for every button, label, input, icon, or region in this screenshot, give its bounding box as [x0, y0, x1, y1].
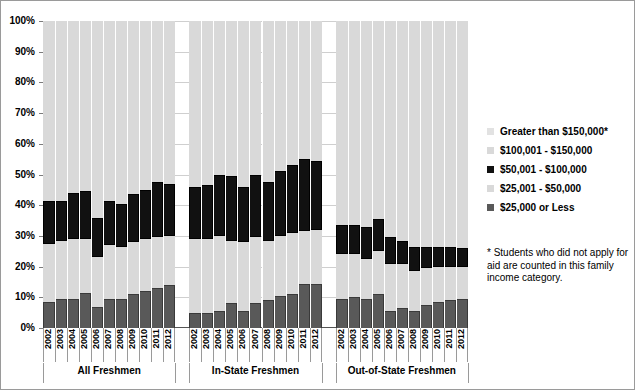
- column-separator: [225, 21, 226, 328]
- bar-segment: [360, 227, 372, 259]
- bar-segment: [55, 299, 67, 328]
- x-band-box: [189, 328, 321, 362]
- stacked-bar[interactable]: [43, 21, 55, 328]
- bar-segment: [372, 21, 384, 219]
- bar-segment: [310, 230, 322, 284]
- legend-item[interactable]: $50,001 - $100,000: [487, 163, 632, 175]
- bar-group: [189, 21, 321, 328]
- column-separator: [249, 21, 250, 328]
- column-separator: [67, 21, 68, 328]
- bar-segment: [408, 247, 420, 272]
- stacked-bar[interactable]: [213, 21, 225, 328]
- legend: Greater than $150,000*$100,001 - $150,00…: [487, 125, 632, 220]
- bar-segment: [298, 231, 310, 283]
- stacked-bar[interactable]: [348, 21, 360, 328]
- stacked-bar[interactable]: [310, 21, 322, 328]
- bar-segment: [201, 239, 213, 313]
- stacked-bar[interactable]: [336, 21, 348, 328]
- group-rule: [189, 363, 190, 383]
- x-band-box: [43, 328, 175, 362]
- bar-segment: [189, 21, 201, 187]
- stacked-bar[interactable]: [201, 21, 213, 328]
- stacked-bar[interactable]: [396, 21, 408, 328]
- stacked-bar[interactable]: [249, 21, 261, 328]
- y-axis: 0%10%20%30%40%50%60%70%80%90%100%: [1, 15, 39, 331]
- stacked-bar[interactable]: [420, 21, 432, 328]
- bar-segment: [336, 225, 348, 254]
- stacked-bar[interactable]: [286, 21, 298, 328]
- bar-segment: [225, 303, 237, 328]
- bar-segment: [396, 21, 408, 241]
- bar-segment: [43, 21, 55, 201]
- stacked-bar[interactable]: [67, 21, 79, 328]
- bar-segment: [360, 259, 372, 299]
- bar-segment: [201, 313, 213, 328]
- stacked-bar[interactable]: [127, 21, 139, 328]
- stacked-bar[interactable]: [189, 21, 201, 328]
- stacked-bar[interactable]: [274, 21, 286, 328]
- bar-segment: [127, 21, 139, 194]
- stacked-bar[interactable]: [115, 21, 127, 328]
- bar-segment: [139, 21, 151, 190]
- bar-segment: [372, 219, 384, 251]
- bar-segment: [274, 171, 286, 235]
- bar-segment: [384, 21, 396, 237]
- bar-segment: [67, 21, 79, 193]
- legend-item[interactable]: $25,000 or Less: [487, 201, 632, 213]
- bar-segment: [249, 237, 261, 303]
- bar-segment: [432, 302, 444, 328]
- bar-segment: [420, 305, 432, 328]
- bar-segment: [262, 241, 274, 301]
- group-rule: [468, 363, 469, 383]
- stacked-bar[interactable]: [372, 21, 384, 328]
- column-separator: [360, 21, 361, 328]
- stacked-bar[interactable]: [55, 21, 67, 328]
- stacked-bar[interactable]: [360, 21, 372, 328]
- stacked-bar[interactable]: [103, 21, 115, 328]
- stacked-bar[interactable]: [79, 21, 91, 328]
- stacked-bar[interactable]: [151, 21, 163, 328]
- bar-segment: [43, 201, 55, 244]
- bar-segment: [189, 239, 201, 313]
- stacked-bar[interactable]: [444, 21, 456, 328]
- footnote: * Students who did not apply for aid are…: [487, 247, 633, 285]
- bar-segment: [249, 21, 261, 175]
- stacked-bar[interactable]: [91, 21, 103, 328]
- group-label: Out-of-State Freshmen: [336, 365, 468, 376]
- stacked-bar[interactable]: [298, 21, 310, 328]
- group-label: All Freshmen: [43, 365, 175, 376]
- bar-segment: [420, 21, 432, 247]
- stacked-bar[interactable]: [456, 21, 468, 328]
- bar-segment: [163, 184, 175, 236]
- bar-segment: [444, 300, 456, 328]
- bar-segment: [79, 191, 91, 239]
- legend-item[interactable]: Greater than $150,000*: [487, 125, 632, 137]
- legend-item[interactable]: $25,001 - $50,000: [487, 182, 632, 194]
- legend-swatch-icon: [487, 204, 494, 211]
- bar-segment: [139, 291, 151, 328]
- bar-segment: [274, 236, 286, 296]
- stacked-bar[interactable]: [408, 21, 420, 328]
- legend-swatch-icon: [487, 147, 494, 154]
- legend-item[interactable]: $100,001 - $150,000: [487, 144, 632, 156]
- bar-segment: [201, 185, 213, 239]
- bar-segment: [151, 182, 163, 237]
- bar-segment: [348, 21, 360, 225]
- stacked-bar[interactable]: [163, 21, 175, 328]
- bar-segment: [237, 311, 249, 328]
- column-separator: [286, 21, 287, 328]
- stacked-bar[interactable]: [432, 21, 444, 328]
- stacked-bar[interactable]: [384, 21, 396, 328]
- bar-segment: [115, 204, 127, 247]
- stacked-bar[interactable]: [262, 21, 274, 328]
- stacked-bar[interactable]: [237, 21, 249, 328]
- bar-segment: [91, 307, 103, 328]
- bar-segment: [456, 248, 468, 266]
- bar-segment: [55, 201, 67, 241]
- x-axis-labels: 2002200320042005200620072008200920102011…: [43, 329, 468, 363]
- bar-segment: [384, 264, 396, 312]
- stacked-bar[interactable]: [225, 21, 237, 328]
- stacked-bar[interactable]: [139, 21, 151, 328]
- bar-segment: [384, 237, 396, 263]
- y-tick-label: 30%: [15, 231, 35, 241]
